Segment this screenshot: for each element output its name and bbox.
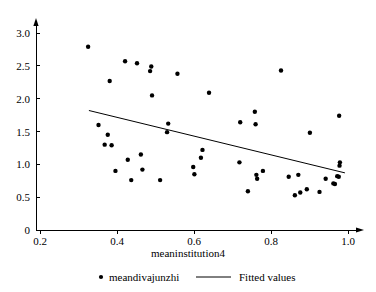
plot-canvas: 0.20.40.60.81.0 00.51.01.52.02.53.0 mean… xyxy=(0,0,376,292)
data-point xyxy=(333,182,337,186)
x-axis-arrow-icon xyxy=(356,227,364,232)
data-point xyxy=(293,193,297,197)
data-point xyxy=(126,158,130,162)
data-point xyxy=(148,69,152,73)
data-point xyxy=(106,133,110,137)
scatter-plot-figure: 0.20.40.60.81.0 00.51.01.52.02.53.0 mean… xyxy=(0,0,376,292)
data-point xyxy=(109,143,113,147)
data-point xyxy=(166,121,170,125)
y-axis-arrow-icon xyxy=(33,18,38,26)
data-points xyxy=(86,45,342,198)
x-axis-title: meaninstitution4 xyxy=(151,247,225,259)
data-point xyxy=(287,175,291,179)
y-axis-tick-labels: 00.51.01.52.02.53.0 xyxy=(16,27,30,236)
data-point xyxy=(238,120,242,124)
data-point xyxy=(149,64,153,68)
y-tick-label: 1.5 xyxy=(16,126,30,138)
data-point xyxy=(158,178,162,182)
data-point xyxy=(150,93,154,97)
data-point xyxy=(254,173,258,177)
y-tick-label: 0 xyxy=(25,224,31,236)
data-point xyxy=(317,190,321,194)
data-point xyxy=(123,59,127,63)
x-tick-label: 0.8 xyxy=(264,235,278,247)
data-point xyxy=(305,187,309,191)
data-point xyxy=(192,172,196,176)
data-point xyxy=(261,169,265,173)
data-point xyxy=(237,160,241,164)
data-point xyxy=(129,178,133,182)
legend: meandivajunzhi Fitted values xyxy=(99,271,296,283)
regression-line xyxy=(89,110,345,172)
x-tick-label: 0.2 xyxy=(33,235,47,247)
x-tick-label: 1.0 xyxy=(341,235,355,247)
data-point xyxy=(323,177,327,181)
y-tick-label: 1.0 xyxy=(16,158,30,170)
y-tick-label: 2.0 xyxy=(16,93,30,105)
y-tick-label: 2.5 xyxy=(16,60,30,72)
legend-label-fitted: Fitted values xyxy=(239,271,296,283)
data-point xyxy=(338,160,342,164)
data-point xyxy=(253,110,257,114)
data-point xyxy=(298,190,302,194)
data-point xyxy=(96,123,100,127)
data-point xyxy=(191,165,195,169)
data-point xyxy=(296,173,300,177)
data-point xyxy=(139,152,143,156)
data-point xyxy=(279,68,283,72)
x-axis-tick-labels: 0.20.40.60.81.0 xyxy=(33,235,355,247)
data-point xyxy=(135,61,139,65)
data-point xyxy=(199,156,203,160)
data-point xyxy=(337,114,341,118)
data-point xyxy=(246,189,250,193)
legend-scatter-marker-icon xyxy=(99,275,103,279)
data-point xyxy=(86,45,90,49)
data-point xyxy=(165,130,169,134)
data-point xyxy=(113,169,117,173)
legend-label-scatter: meandivajunzhi xyxy=(109,271,179,283)
x-tick-label: 0.4 xyxy=(110,235,124,247)
axes xyxy=(33,18,364,233)
tick-marks xyxy=(36,33,348,234)
data-point xyxy=(308,131,312,135)
data-point xyxy=(140,167,144,171)
data-point xyxy=(102,142,106,146)
y-tick-label: 3.0 xyxy=(16,27,30,39)
data-point xyxy=(255,177,259,181)
data-point xyxy=(253,122,257,126)
fitted-values-line xyxy=(89,110,345,172)
y-tick-label: 0.5 xyxy=(16,191,30,203)
x-tick-label: 0.6 xyxy=(187,235,201,247)
data-point xyxy=(107,79,111,83)
data-point xyxy=(207,91,211,95)
data-point xyxy=(200,148,204,152)
data-point xyxy=(337,175,341,179)
data-point xyxy=(175,72,179,76)
